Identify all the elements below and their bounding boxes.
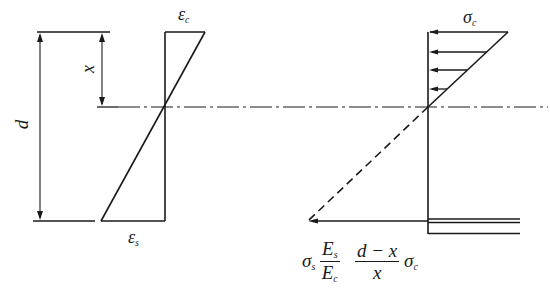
- modular-ratio-fraction: Es Ec: [320, 239, 340, 284]
- concrete-strain-label: εc: [178, 5, 190, 25]
- diagram-lines: [0, 0, 550, 290]
- depth-dimension: [33, 32, 110, 221]
- stress-diagram: [308, 30, 520, 235]
- depth-label: d: [12, 120, 31, 130]
- diagram-canvas: εc εs d x σc σs Es Ec d − x x σc: [0, 0, 550, 290]
- neutral-axis-depth-dimension: [97, 33, 118, 107]
- neutral-axis-depth-label: x: [79, 65, 97, 73]
- trailing-concrete-stress-symbol: σc: [404, 250, 418, 271]
- steel-stress-symbol: σs: [302, 250, 315, 271]
- depth-ratio-fraction: d − x x: [355, 241, 399, 282]
- steel-strain-label: εs: [128, 228, 139, 248]
- steel-stress-formula: σs Es Ec d − x x σc: [302, 239, 418, 284]
- concrete-stress-label: σc: [463, 8, 476, 28]
- strain-diagram: [101, 32, 205, 221]
